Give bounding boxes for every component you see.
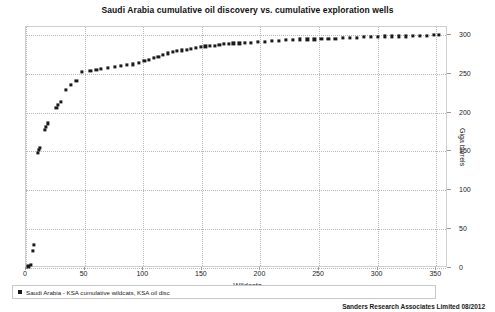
y-tick-label: 100 xyxy=(459,186,471,193)
data-point xyxy=(99,67,102,70)
x-tick-label: 350 xyxy=(429,270,441,277)
y-tick-mark xyxy=(447,34,451,35)
data-point xyxy=(29,263,32,266)
data-point xyxy=(348,36,351,39)
y-tick-mark xyxy=(447,267,451,268)
data-point xyxy=(362,36,365,39)
gridline-horizontal xyxy=(26,268,446,269)
data-point xyxy=(411,34,414,37)
data-point xyxy=(125,63,128,66)
data-point xyxy=(369,36,372,39)
data-point xyxy=(432,33,435,36)
y-tick-mark xyxy=(447,73,451,74)
data-point xyxy=(208,44,211,47)
y-tick-mark xyxy=(447,150,451,151)
data-point xyxy=(327,37,330,40)
data-point xyxy=(249,41,252,44)
data-point xyxy=(162,53,165,56)
data-point xyxy=(75,79,78,82)
data-point xyxy=(171,50,174,53)
data-point xyxy=(47,122,50,125)
footer-credit: Sanders Research Associates Limited 08/2… xyxy=(342,303,485,310)
x-tick-label: 200 xyxy=(254,270,266,277)
legend-entry-label: Saudi Arabia - KSA cumulative wildcats, … xyxy=(26,289,170,296)
data-point xyxy=(341,36,344,39)
data-point xyxy=(218,43,221,46)
data-point xyxy=(113,65,116,68)
x-tick-label: 300 xyxy=(371,270,383,277)
data-point xyxy=(36,151,39,154)
data-point xyxy=(147,58,150,61)
data-point xyxy=(43,128,46,131)
y-tick-label: 300 xyxy=(459,30,471,37)
data-point xyxy=(404,35,407,38)
data-point xyxy=(232,42,235,45)
data-point xyxy=(157,55,160,58)
chart-title: Saudi Arabia cumulative oil discovery vs… xyxy=(0,5,495,15)
x-tick-label: 250 xyxy=(312,270,324,277)
data-point xyxy=(55,106,58,109)
data-point xyxy=(33,243,36,246)
data-point xyxy=(223,43,226,46)
scatter-series xyxy=(26,27,446,266)
data-point xyxy=(166,52,169,55)
data-point xyxy=(257,40,260,43)
data-point xyxy=(334,37,337,40)
y-tick-mark xyxy=(447,112,451,113)
data-point xyxy=(227,43,230,46)
data-point xyxy=(152,57,155,60)
data-point xyxy=(131,63,134,66)
data-point xyxy=(143,60,146,63)
data-point xyxy=(376,36,379,39)
data-point xyxy=(190,47,193,50)
data-point xyxy=(199,46,202,49)
chart-figure: Saudi Arabia cumulative oil discovery vs… xyxy=(0,0,495,312)
data-point xyxy=(390,35,393,38)
legend: Saudi Arabia - KSA cumulative wildcats, … xyxy=(12,285,436,299)
data-point xyxy=(383,35,386,38)
data-point xyxy=(313,38,316,41)
data-point xyxy=(95,68,98,71)
data-point xyxy=(213,44,216,47)
data-point xyxy=(425,34,428,37)
data-point xyxy=(397,35,400,38)
x-tick-label: 150 xyxy=(195,270,207,277)
data-point xyxy=(56,103,59,106)
data-point xyxy=(244,41,247,44)
data-point xyxy=(194,46,197,49)
data-point xyxy=(185,48,188,51)
y-tick-mark xyxy=(447,189,451,190)
data-point xyxy=(271,39,274,42)
data-point xyxy=(320,37,323,40)
legend-marker-icon xyxy=(18,290,22,294)
data-point xyxy=(69,83,72,86)
y-tick-label: 200 xyxy=(459,108,471,115)
plot-area xyxy=(25,26,447,267)
data-point xyxy=(285,39,288,42)
data-point xyxy=(176,50,179,53)
data-point xyxy=(137,61,140,64)
data-point xyxy=(238,42,241,45)
data-point xyxy=(204,45,207,48)
data-point xyxy=(418,34,421,37)
data-point xyxy=(180,49,183,52)
y-tick-label: 250 xyxy=(459,69,471,76)
data-point xyxy=(299,38,302,41)
data-point xyxy=(437,33,440,36)
data-point xyxy=(38,146,41,149)
data-point xyxy=(119,64,122,67)
y-tick-label: 0 xyxy=(459,264,463,271)
data-point xyxy=(292,39,295,42)
y-tick-mark xyxy=(447,228,451,229)
x-tick-label: 0 xyxy=(23,270,27,277)
data-point xyxy=(81,70,84,73)
y-tick-label: 50 xyxy=(459,225,467,232)
data-point xyxy=(31,249,34,252)
data-point xyxy=(306,38,309,41)
y-axis-label: Giga barrels xyxy=(459,128,466,166)
data-point xyxy=(106,67,109,70)
data-point xyxy=(60,100,63,103)
data-point xyxy=(355,36,358,39)
data-point xyxy=(278,39,281,42)
data-point xyxy=(64,88,67,91)
